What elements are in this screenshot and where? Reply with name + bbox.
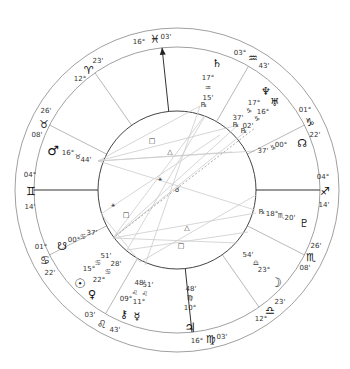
venus-label-2: 28': [111, 261, 122, 268]
sign-icon-h8: ♑: [305, 117, 315, 128]
aspect-symbol-icon: ⚹: [158, 176, 162, 183]
north-node-icon: ☊: [297, 138, 307, 149]
venus-icon: ♀: [88, 289, 96, 300]
aspect-line-opposition: [113, 128, 255, 238]
cusp-degree-h8: 01°: [299, 107, 311, 114]
aspect-symbol-icon: □: [149, 138, 156, 145]
saturn-label-0: 17°: [202, 75, 214, 82]
cusp-minute-ic: 03': [217, 334, 228, 341]
aspect-symbol-icon: □: [123, 212, 130, 219]
chiron-icon: ⚷: [120, 309, 128, 320]
cusp-minute-h12: 08': [32, 132, 43, 139]
cusp-minute-mc: 03': [161, 34, 172, 41]
jupiter-icon: ♃: [184, 321, 196, 334]
cusp-degree-mc: 16°: [133, 39, 145, 46]
north-node-label-0: 00°: [275, 142, 287, 149]
cusp-minute-h3: 43': [110, 327, 121, 334]
sign-icon-mc: ♓: [150, 34, 160, 45]
cusp-degree-h5: 12°: [255, 316, 267, 323]
neptune-label-0: 17°: [248, 100, 260, 107]
aspect-symbol-icon: □: [178, 243, 185, 250]
venus-label-1: ♋: [105, 269, 111, 276]
sign-icon-h2: ♋: [40, 255, 50, 266]
cusp-line-h6: [247, 226, 304, 255]
north-node-label-1: ♑: [270, 145, 276, 152]
north-node-label-2: 37': [258, 148, 269, 155]
pluto-label-0: ℞: [259, 209, 265, 216]
cusp-degree-h2: 01°: [35, 244, 47, 251]
saturn-label-1: ♒: [205, 85, 211, 92]
cusp-line-mc: [162, 48, 169, 112]
sign-icon-h5: ♎: [265, 305, 275, 316]
mercury-label-0: 11°: [133, 299, 145, 306]
cusp-minute-h2: 22': [45, 270, 56, 277]
cusp-degree-h11: 12°: [74, 76, 86, 83]
neptune-label-3: ℞: [233, 122, 239, 129]
sign-icon-h12: ♉: [39, 119, 49, 130]
cusp-degree-h9: 03°: [234, 50, 246, 57]
south-node-icon: ☋: [57, 241, 67, 252]
chiron-label-1: ♌: [132, 290, 138, 297]
aspect-symbol-icon: ⚹: [111, 202, 115, 209]
sign-icon-h11: ♈: [84, 65, 94, 76]
aspect-symbol-icon: ☌: [175, 187, 180, 194]
uranus-label-3: ℞: [241, 128, 247, 135]
mars-icon: ♂: [47, 144, 59, 157]
mercury-icon: ☿: [134, 311, 141, 322]
aspect-symbol-icon: △: [167, 149, 172, 156]
aspect-line: [113, 125, 238, 238]
mercury-label-2: 51': [143, 282, 154, 289]
sun-label-2: 51': [101, 253, 112, 260]
jupiter-label-0: 48': [186, 286, 197, 293]
cusp-minute-dsc: 14': [319, 202, 330, 209]
south-node-label-2: 37': [87, 230, 98, 237]
cusp-minute-h6: 08': [300, 265, 311, 272]
pluto-icon: ♇: [299, 218, 309, 229]
sign-icon-ic: ♍: [206, 334, 216, 345]
jupiter-label-2: 10°: [184, 305, 196, 312]
mars-label-0: 16°: [62, 150, 74, 157]
sign-icon-h3: ♌: [97, 319, 107, 330]
south-node-label-1: ♋: [80, 234, 86, 241]
jupiter-label-1: ♍: [187, 295, 193, 302]
moon-label-2: 23°: [258, 267, 270, 274]
sign-icon-h9: ♒: [248, 53, 258, 64]
pluto-label-1: 18°: [266, 211, 278, 218]
mars-label-2: 44': [81, 157, 92, 164]
cusp-degree-ic: 16°: [191, 338, 203, 345]
moon-icon: ☽: [270, 276, 282, 289]
cusp-degree-asc: 04°: [24, 172, 36, 179]
uranus-label-1: ♑: [254, 116, 260, 123]
cusp-degree-dsc: 04°: [317, 174, 329, 181]
south-node-label-0: 00°: [68, 237, 80, 244]
cusp-minute-asc: 14': [25, 204, 36, 211]
venus-label-0: 22°: [93, 277, 105, 284]
sun-icon: ☉: [74, 277, 86, 290]
sign-icon-dsc: ♐: [320, 186, 330, 197]
pluto-label-3: 20': [285, 215, 296, 222]
cusp-degree-h3: 03': [85, 312, 96, 319]
cusp-degree-h6: 26': [311, 243, 322, 250]
pluto-label-2: ♏: [278, 213, 284, 220]
cusp-minute-h8: 22': [310, 132, 321, 139]
cusp-minute-h5: 23': [275, 299, 286, 306]
cusp-minute-h11: 23': [93, 58, 104, 65]
cusp-line-h11: [95, 73, 132, 125]
aspect-line: [98, 106, 200, 161]
sun-label-1: ♋: [95, 260, 101, 267]
mercury-label-1: ♌: [142, 291, 148, 298]
cusp-degree-h12: 26': [41, 108, 52, 115]
chiron-label-0: 09°: [120, 296, 132, 303]
neptune-label-1: ♑: [246, 108, 252, 115]
aspect-symbol-icon: △: [184, 225, 189, 232]
aspect-line: [127, 116, 205, 250]
mc-arrow-icon: [160, 48, 166, 55]
uranus-icon: ♅: [270, 97, 280, 108]
saturn-icon: ♄: [212, 58, 222, 69]
saturn-label-3: ℞: [201, 102, 207, 109]
sun-label-0: 15°: [83, 266, 95, 273]
aspect-line: [98, 125, 238, 161]
sign-icon-asc: ♊: [26, 186, 36, 197]
sign-icon-h6: ♏: [306, 252, 316, 263]
cusp-minute-h9: 43': [259, 63, 270, 70]
